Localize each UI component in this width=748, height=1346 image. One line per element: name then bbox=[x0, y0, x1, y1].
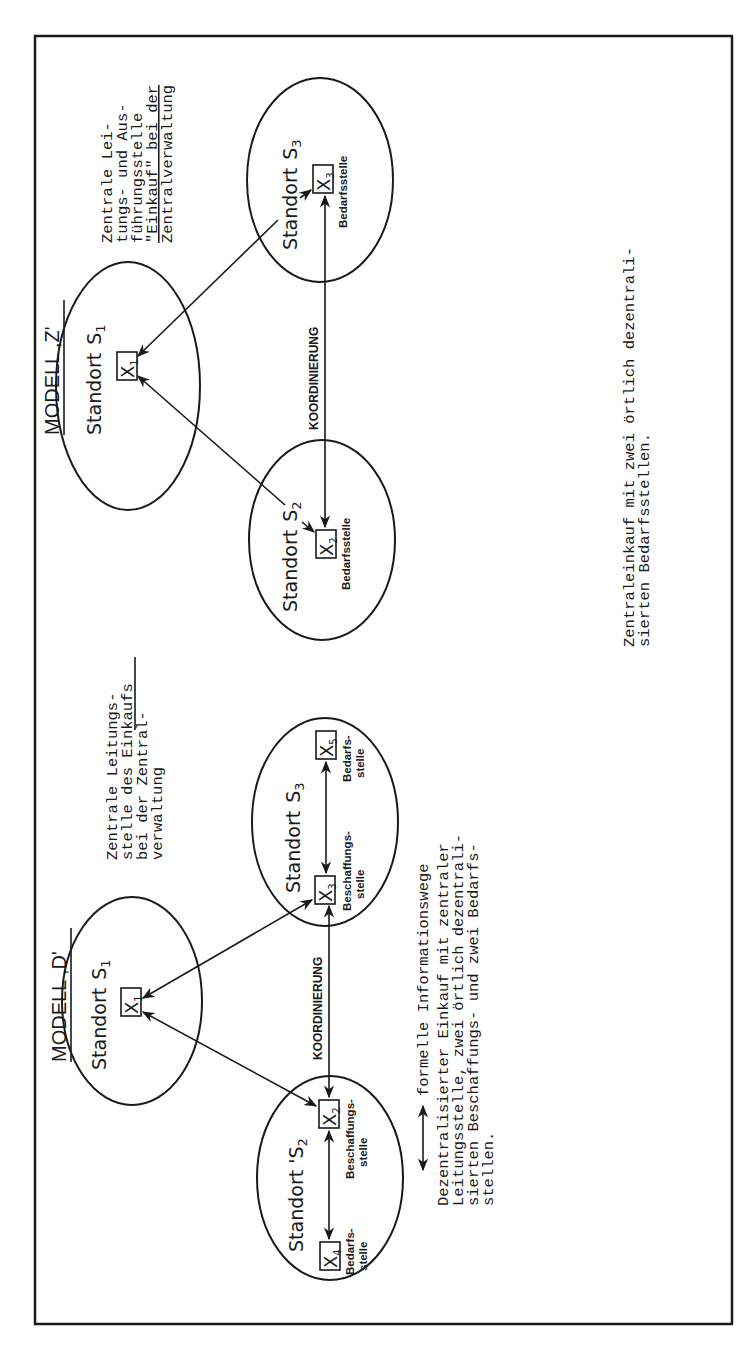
model-z-standort-s2-label: StandortS2 bbox=[279, 502, 304, 613]
svg-text:Bedarfs-: Bedarfs- bbox=[344, 1228, 356, 1275]
svg-text:Beschaffungs-: Beschaffungs- bbox=[344, 1099, 356, 1179]
model-d-standort-s3-label: StandortS3 bbox=[282, 783, 307, 894]
svg-text:StandortS1: StandortS1 bbox=[83, 325, 108, 436]
model-z-caption: Zentraleinkauf mit zwei örtlich dezentra… bbox=[621, 247, 654, 647]
model-d-coordination-label: KOORDINIERUNG bbox=[311, 957, 325, 1060]
model-d-legend-label: formelle Informationswege bbox=[415, 863, 433, 1096]
model-z-standort-s3-label: StandortS3 bbox=[279, 140, 304, 251]
svg-text:stelle: stelle bbox=[354, 870, 366, 899]
model-z-s3-role: Bedarfsstelle bbox=[337, 156, 349, 228]
model-z-arrow-s3-local bbox=[300, 190, 311, 198]
model-z: MODELL ,Z' StandortS1 X1 StandortS3 X3 B… bbox=[41, 78, 654, 647]
model-d-s3-role-b: Bedarfs- stelle bbox=[341, 735, 366, 782]
model-d: MODELL ,D' StandortS1 X1 StandortS3 X3 X… bbox=[48, 657, 498, 1280]
model-z-central-note: Zentrale Lei- tungs- und Aus- führungsst… bbox=[99, 85, 177, 243]
svg-text:stellen.: stellen. bbox=[480, 1132, 498, 1206]
svg-text:Beschaffungs-: Beschaffungs- bbox=[341, 831, 353, 911]
svg-text:sierten Bedarfsstellen.: sierten Bedarfsstellen. bbox=[636, 433, 654, 647]
model-d-arrow-x1-x3 bbox=[143, 900, 312, 998]
svg-text:StandortS1: StandortS1 bbox=[88, 960, 113, 1071]
model-d-caption: Dezentralisierter Einkauf mit zentraler … bbox=[435, 834, 498, 1206]
svg-text:stelle: stelle bbox=[357, 1242, 369, 1271]
model-d-s2-role-a: Beschaffungs- stelle bbox=[344, 1099, 369, 1179]
model-d-title: MODELL ,D' bbox=[48, 951, 70, 1062]
svg-text:Bedarfs-: Bedarfs- bbox=[341, 735, 353, 782]
svg-text:Zentralverwaltung: Zentralverwaltung bbox=[159, 85, 177, 243]
model-z-s2-role: Bedarfsstelle bbox=[340, 518, 352, 590]
svg-text:verwaltung: verwaltung bbox=[149, 767, 167, 860]
model-d-standort-s2-label: Standort 'S2 bbox=[285, 1138, 310, 1252]
model-d-arrow-x1-x2 bbox=[143, 1012, 316, 1106]
svg-text:StandortS2: StandortS2 bbox=[279, 502, 304, 613]
model-z-arrow-s2-to-x1 bbox=[138, 376, 285, 505]
model-d-s3-role-a: Beschaffungs- stelle bbox=[341, 831, 366, 911]
svg-text:StandortS3: StandortS3 bbox=[279, 140, 304, 251]
model-d-s2-role-b: Bedarfs- stelle bbox=[344, 1228, 369, 1275]
svg-text:stelle: stelle bbox=[357, 1138, 369, 1167]
model-d-standort-s1-label: StandortS1 bbox=[88, 960, 113, 1071]
svg-text:Standort 'S2: Standort 'S2 bbox=[285, 1138, 310, 1252]
model-z-coordination-label: KOORDINIERUNG bbox=[307, 327, 321, 430]
svg-text:stelle: stelle bbox=[354, 749, 366, 778]
model-z-standort-s1-label: StandortS1 bbox=[83, 325, 108, 436]
model-z-arrow-s2-local bbox=[302, 522, 314, 532]
model-z-standort-s1-circle bbox=[56, 262, 200, 510]
diagram-canvas: MODELL ,Z' StandortS1 X1 StandortS3 X3 B… bbox=[0, 0, 748, 1346]
svg-text:StandortS3: StandortS3 bbox=[282, 783, 307, 894]
